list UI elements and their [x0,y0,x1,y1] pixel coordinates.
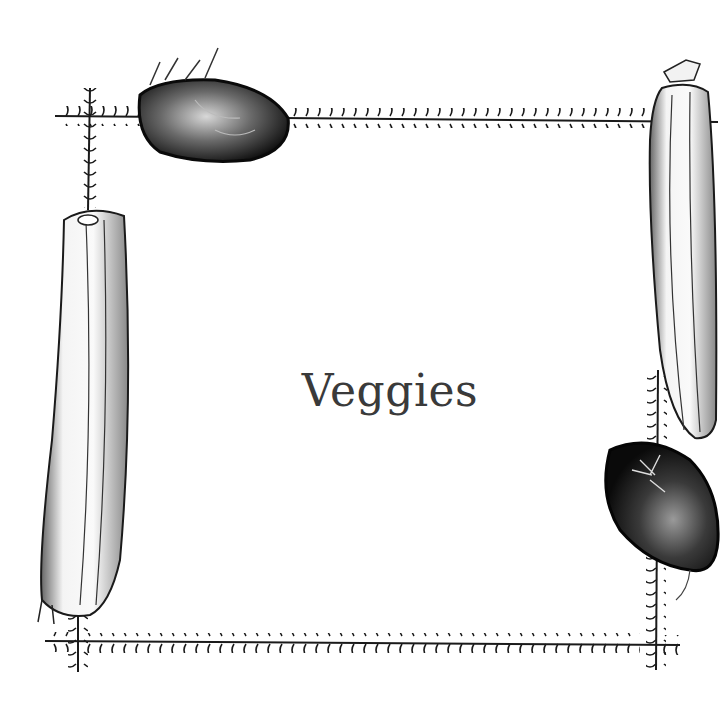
zucchini-left [38,211,128,624]
veggie-border-illustration [0,0,722,728]
potato-top-left [139,48,288,161]
page-title: Veggies [290,365,490,416]
